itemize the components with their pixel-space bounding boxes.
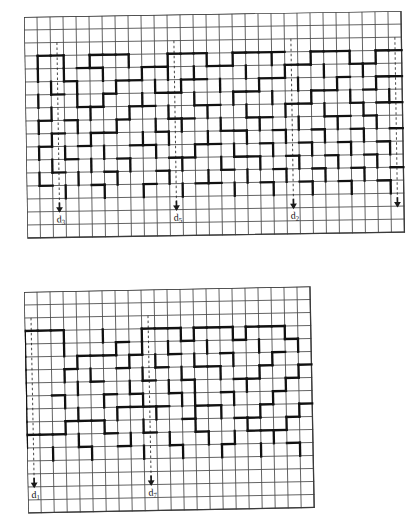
entrance-label-index: 2 — [296, 214, 300, 222]
entrance-label-letter: d — [148, 487, 153, 498]
entrance-label-d1: d1 — [31, 490, 40, 500]
entrance-label-letter: d — [31, 489, 36, 500]
entrance-label-letter: d — [291, 210, 296, 221]
figure-root: d3d5d2d1d7 — [0, 0, 419, 522]
maze-walls — [38, 50, 404, 199]
entrance-label-index: 3 — [62, 218, 66, 226]
top-maze: d3d5d2 — [24, 11, 413, 264]
grid-border — [24, 11, 404, 238]
bottom-maze: d1d7 — [24, 286, 323, 522]
entrance-label-index: 5 — [179, 216, 183, 224]
entrance-label-d2: d2 — [291, 211, 300, 221]
entrance-label-index: 7 — [153, 491, 157, 499]
entrance-label-d3: d3 — [57, 214, 66, 224]
entrance-label-d7: d7 — [148, 487, 157, 497]
entrance-label-letter: d — [57, 213, 62, 224]
entrance-label-d5: d5 — [174, 213, 183, 223]
maze-walls — [25, 326, 313, 461]
grid-lines — [24, 287, 314, 513]
entrance-label-letter: d — [174, 212, 179, 223]
grid-lines — [24, 11, 404, 238]
entrance-label-index: 1 — [36, 493, 40, 501]
